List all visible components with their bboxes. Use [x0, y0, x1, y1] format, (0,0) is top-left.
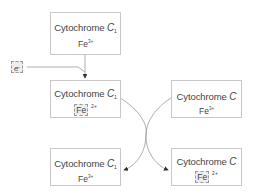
box-subscript: 1 — [114, 94, 117, 100]
box-symbol: C — [229, 91, 236, 102]
electron-charge: - — [19, 64, 20, 69]
box-name: Cytochrome — [54, 158, 104, 169]
iron-charge: 3+ — [88, 39, 93, 44]
iron-charge: 3+ — [209, 106, 214, 111]
iron-charge: 2+ — [91, 103, 97, 109]
iron-charge: 2+ — [212, 170, 218, 176]
box-name: Cytochrome — [54, 88, 104, 99]
box-cytochrome-c1-mid: Cytochrome C1 Fe2+ — [50, 80, 121, 118]
box-subscript: 1 — [114, 28, 117, 34]
iron-label: Fe — [199, 106, 209, 116]
box-title: Cytochrome C1 — [51, 88, 120, 100]
electron-badge: e- — [11, 61, 23, 73]
box-cytochrome-c-mid: Cytochrome C Fe3+ — [171, 80, 242, 118]
box-cytochrome-c1-bottom: Cytochrome C1 Fe3+ — [50, 148, 121, 186]
iron-state: Fe2+ — [51, 103, 120, 116]
iron-label: Fe — [78, 39, 88, 49]
box-title: Cytochrome C — [172, 91, 241, 102]
box-name: Cytochrome — [177, 156, 227, 167]
iron-label-highlighted: Fe — [195, 171, 209, 183]
iron-label-highlighted: Fe — [74, 104, 88, 116]
box-title: Cytochrome C1 — [51, 158, 120, 170]
box-cytochrome-c-bottom: Cytochrome C Fe2+ — [171, 148, 242, 186]
iron-state: Fe3+ — [51, 39, 120, 49]
iron-state: Fe2+ — [172, 170, 241, 183]
box-name: Cytochrome — [177, 91, 227, 102]
box-title: Cytochrome C1 — [51, 22, 120, 34]
iron-state: Fe3+ — [51, 174, 120, 184]
box-cytochrome-c1-top: Cytochrome C1 Fe3+ — [50, 12, 121, 55]
box-symbol: C — [229, 156, 236, 167]
arrow-c1-to-c — [120, 98, 168, 170]
iron-state: Fe3+ — [172, 106, 241, 116]
iron-label: Fe — [78, 174, 88, 184]
electron-line — [27, 67, 85, 72]
arrow-c-to-c1 — [124, 98, 171, 170]
box-name: Cytochrome — [54, 22, 104, 33]
iron-charge: 3+ — [88, 174, 93, 179]
box-title: Cytochrome C — [172, 156, 241, 167]
box-subscript: 1 — [114, 164, 117, 170]
